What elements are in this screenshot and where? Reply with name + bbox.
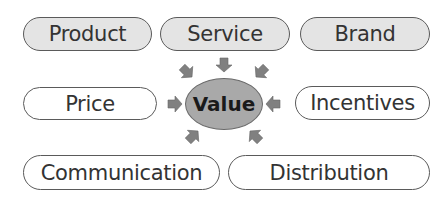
arrow-icon: [216, 58, 232, 72]
arrow-icon: [182, 125, 203, 146]
arrow-icon: [250, 61, 271, 82]
arrows-layer: [0, 0, 446, 199]
arrow-icon: [266, 96, 280, 112]
arrow-icon: [244, 125, 265, 146]
arrow-icon: [176, 61, 197, 82]
arrow-icon: [168, 96, 182, 112]
